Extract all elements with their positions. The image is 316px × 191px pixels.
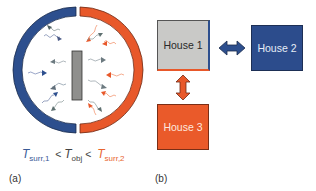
t-surr2-subscript: surr,2 [105,154,125,163]
t-obj-subscript: obj [72,154,83,163]
radiation-arrows-left [28,25,66,111]
hot-surrounding-ring [80,7,143,133]
less-than-1: < [55,148,61,160]
t-surr2-symbol: T [97,147,104,161]
radiation-arrows-right [86,25,124,115]
cold-surrounding-ring [13,7,76,133]
house-3-label: House 3 [163,121,202,133]
house-2: House 2 [251,25,303,71]
less-than-2: < [85,148,91,160]
temperature-inequality: Tsurr,1 < Tobj < Tsurr,2 [22,147,125,163]
house-2-label: House 2 [257,42,296,54]
t-surr1-subscript: surr,1 [29,154,49,163]
t-obj-symbol: T [64,147,71,161]
house-1-label: House 1 [163,39,202,51]
panel-a-label: (a) [9,173,21,184]
double-arrow-house1-house3 [176,75,190,100]
panel-b-label: (b) [155,173,167,184]
double-arrow-house1-house2 [219,41,245,55]
house-1: House 1 [157,20,210,71]
object-rectangle [72,51,82,100]
house-3: House 3 [157,104,209,150]
